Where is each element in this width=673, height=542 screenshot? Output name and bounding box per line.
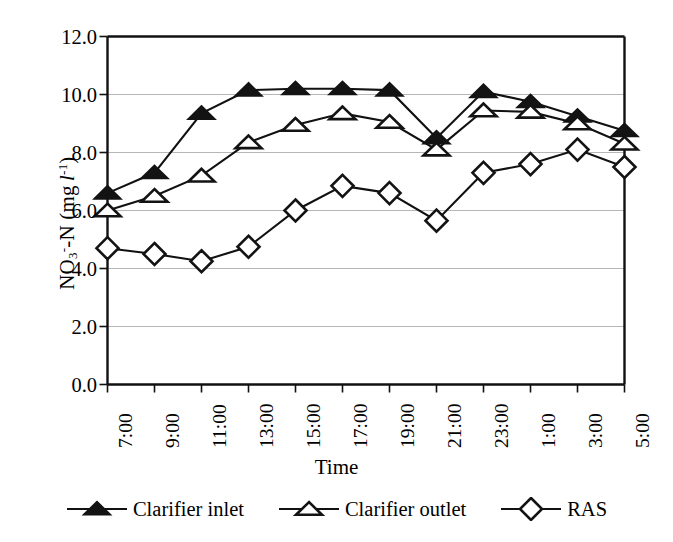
x-tick-label: 23:00 [492,403,512,447]
x-tick-label: 11:00 [210,404,230,448]
x-tick-label: 5:00 [633,413,653,448]
x-tick-label: 7:00 [116,413,136,448]
chart-legend: Clarifier inletClarifier outletRAS [0,497,673,521]
chart-figure: NO3--N (mg l-1) 12.010.08.06.04.02.00.0 … [0,0,673,542]
x-tick-label: 1:00 [539,413,559,448]
x-tick-label: 3:00 [586,413,606,448]
x-tick-label: 15:00 [304,403,324,447]
legend-marker-filled-triangle [66,497,128,521]
legend-marker-open-diamond [500,497,562,521]
x-tick-label: 13:00 [257,403,277,447]
legend-item: Clarifier inlet [66,497,244,521]
legend-item: RAS [500,497,607,521]
legend-item: Clarifier outlet [278,497,466,521]
legend-label: RAS [567,499,607,520]
legend-label: Clarifier inlet [133,499,244,520]
x-tick-label: 19:00 [398,403,418,447]
legend-marker-open-triangle [278,497,340,521]
x-tick-label: 21:00 [445,403,465,447]
legend-symbol [520,498,542,520]
x-tick-label: 9:00 [163,413,183,448]
x-tick-label: 17:00 [351,403,371,447]
x-axis-title: Time [0,455,673,480]
legend-label: Clarifier outlet [345,499,466,520]
